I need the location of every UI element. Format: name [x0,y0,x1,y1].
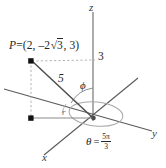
theta-angle-label: θ = 5π 3 [86,133,111,151]
y-axis-label: y [152,128,157,139]
r-length-label: r [62,108,66,117]
origin-marker [91,116,96,121]
theta-numerator: 5π [101,133,111,141]
phi-angle-label: ϕ [80,80,86,91]
height-value-label: 3 [98,51,104,63]
p-height-dashed-line [32,60,95,61]
z-axis-label: z [89,2,93,13]
theta-symbol: θ [86,136,91,147]
theta-denominator: 3 [101,141,111,150]
point-P-label: P=(2, –2√3, 3) [9,40,79,52]
point-P-equals: = [16,39,23,51]
point-P-y-suffix: , [63,39,66,51]
spherical-coordinates-figure: P=(2, –2√3, 3) z y x 3 5 ϕ r θ = 5π 3 [0,0,166,168]
rho-value-label: 5 [58,73,64,85]
projection-point-marker [28,115,33,120]
theta-fraction: 5π 3 [101,133,111,151]
point-P-close-paren: ) [75,39,79,51]
point-P-y-radical: √3 [50,40,63,52]
point-P-marker [28,58,33,63]
theta-equals-sign: = [93,137,99,148]
point-P-y-radicand: 3 [57,38,64,51]
x-axis-label: x [42,152,47,163]
theta-arc [68,99,124,129]
point-P-x-value: 2, [27,39,36,51]
y-axis-line [4,89,152,131]
point-P-y-prefix: –2 [38,39,50,51]
